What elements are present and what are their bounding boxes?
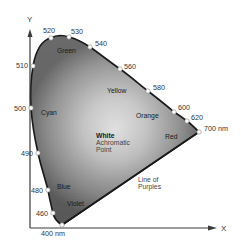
marker-620	[185, 119, 189, 123]
label-600: 600	[178, 103, 190, 112]
region-yellow: Yellow	[107, 87, 126, 94]
label-700nm: 700 nm	[204, 124, 228, 133]
region-orange: Orange	[136, 112, 159, 120]
marker-540	[88, 45, 92, 49]
chromaticity-diagram: Y X 520 530 540 560 580 600 620 700 nm 5…	[0, 0, 241, 246]
marker-700	[197, 130, 201, 134]
label-620: 620	[191, 113, 203, 122]
region-green: Green	[57, 47, 76, 54]
line-of-purples-label-2: Purples	[138, 183, 162, 191]
label-510: 510	[16, 61, 28, 70]
label-500: 500	[14, 104, 26, 113]
label-400nm: 400 nm	[41, 229, 65, 238]
region-violet: Violet	[67, 200, 84, 207]
region-cyan: Cyan	[41, 109, 57, 117]
label-560: 560	[124, 62, 136, 71]
label-530: 530	[71, 27, 83, 36]
marker-580	[146, 89, 150, 93]
label-490: 490	[21, 149, 33, 158]
label-520: 520	[43, 26, 55, 35]
label-540: 540	[95, 39, 107, 48]
marker-600	[172, 110, 176, 114]
y-axis-arrow-icon	[28, 29, 33, 37]
label-460: 460	[36, 209, 48, 218]
x-axis-label: X	[221, 224, 227, 233]
white-point-line2: Point	[96, 146, 112, 153]
marker-520	[49, 36, 53, 40]
marker-560	[118, 67, 122, 71]
marker-490	[36, 151, 40, 155]
white-point-line1: Achromatic	[96, 139, 131, 146]
line-of-purples-label-1: Line of	[138, 176, 159, 183]
region-red: Red	[165, 133, 178, 140]
y-axis-label: Y	[27, 15, 33, 24]
x-axis-arrow-icon	[208, 226, 217, 231]
marker-500	[29, 106, 33, 110]
label-580: 580	[153, 83, 165, 92]
region-blue: Blue	[57, 183, 71, 190]
white-point-title: White	[96, 132, 115, 139]
marker-460	[51, 211, 55, 215]
label-480: 480	[31, 186, 43, 195]
marker-400	[60, 223, 64, 227]
marker-480	[46, 188, 50, 192]
marker-510	[31, 64, 35, 68]
